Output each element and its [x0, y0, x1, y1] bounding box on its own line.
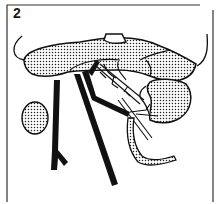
rectangular-notch — [104, 34, 126, 43]
stippled-organ-right — [147, 79, 191, 123]
dark-vessel-left — [51, 80, 68, 170]
panel-label: 2 — [13, 6, 21, 20]
anatomical-diagram — [0, 0, 220, 204]
small-stippled-organ-left — [22, 102, 48, 134]
stippled-duct — [127, 118, 176, 165]
hook-line-right — [197, 34, 207, 66]
dark-vessel-center — [74, 74, 118, 186]
hook-line-left — [14, 36, 24, 60]
